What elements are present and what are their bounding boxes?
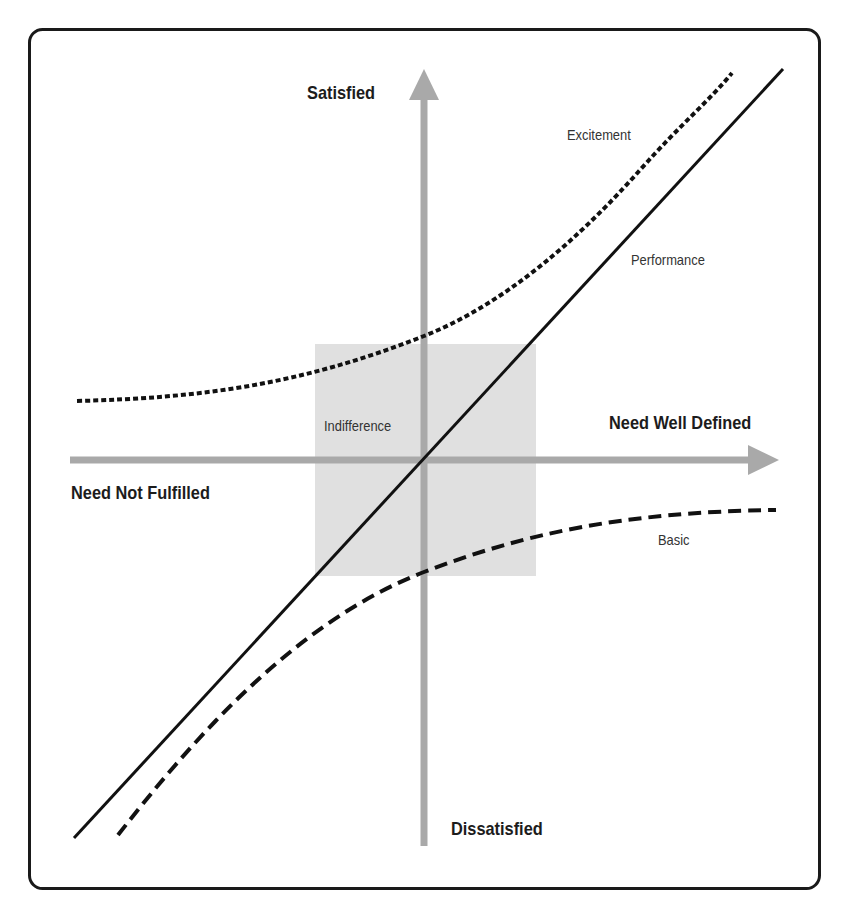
kano-diagram: Satisfied Dissatisfied Need Not Fulfille… [0, 0, 843, 918]
satisfied-label: Satisfied [307, 83, 375, 102]
dissatisfied-label: Dissatisfied [451, 819, 543, 838]
need-not-fulfilled-label: Need Not Fulfilled [71, 483, 210, 502]
need-well-defined-label: Need Well Defined [609, 413, 751, 432]
indifference-label: Indifference [324, 418, 391, 433]
diagram-canvas [0, 0, 843, 918]
performance-label: Performance [631, 252, 705, 267]
excitement-label: Excitement [567, 127, 631, 142]
basic-label: Basic [658, 532, 690, 547]
